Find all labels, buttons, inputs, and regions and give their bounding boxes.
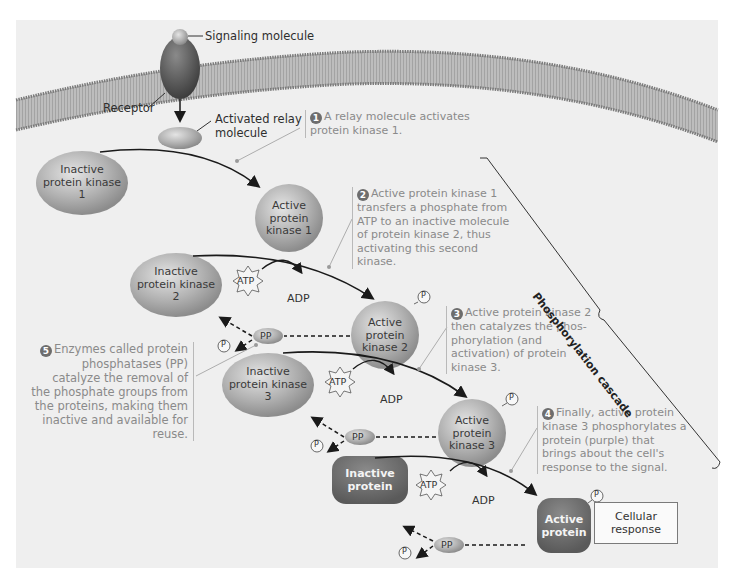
inorganic-phosphate-icon-3: P [402,547,407,556]
pp-label-2: PP [352,431,363,442]
atp-label-2: ATP [329,376,346,387]
step-5: 5Enzymes called protein phosphatases (PP… [30,342,194,441]
inactive-protein-kinase-2: Inactive protein kinase 2 [134,259,218,311]
step-1-text: A relay molecule activates protein kinas… [310,110,470,137]
step-number-5: 5 [40,345,52,357]
active-protein-kinase-1: Active protein kinase 1 [258,192,320,246]
inorganic-phosphate-icon-1: P [221,340,226,349]
inactive-protein: Inactive protein [332,456,408,504]
step-number-2: 2 [357,189,369,201]
active-protein-kinase-2: Active protein kinase 2 [354,309,416,363]
phosphate-icon-pk3: P [509,393,514,402]
phosphorylation-cascade-diagram: Signaling molecule Receptor Activated re… [0,0,735,574]
adp-label-1: ADP [287,292,310,305]
relay-molecule-label: Activated relay molecule [215,112,305,140]
cellular-response-box: Cellular response [594,502,678,544]
inactive-protein-kinase-3: Inactive protein kinase 3 [226,359,310,411]
signaling-molecule-label: Signaling molecule [205,29,314,43]
step-2: 2Active protein kinase 1 transfers a pho… [352,187,517,269]
step-1: 1A relay molecule activates protein kina… [305,110,490,138]
adp-label-2: ADP [380,393,403,406]
receptor-shape [160,37,200,99]
step-4-text: Finally, active protein kinase 3 phospho… [542,406,687,474]
atp-label-3: ATP [420,479,437,490]
pp-label-1: PP [260,330,271,341]
phosphate-icon-pk2: P [421,291,426,300]
step-5-text: Enzymes called protein phosphatases (PP)… [31,342,188,441]
step-2-text: Active protein kinase 1 transfers a phos… [357,187,509,268]
inorganic-phosphate-icon-2: P [314,440,319,449]
signaling-molecule-shape [172,29,188,45]
adp-label-3: ADP [472,494,495,507]
step-number-1: 1 [310,112,322,124]
step-number-3: 3 [451,308,463,320]
active-protein-kinase-3: Active protein kinase 3 [441,407,503,461]
receptor-label: Receptor [103,101,155,115]
phosphate-icon-protein: P [594,490,599,499]
active-protein: Active protein [537,498,591,553]
inactive-protein-kinase-1: Inactive protein kinase 1 [40,157,124,209]
relay-molecule-shape [158,127,202,149]
step-number-4: 4 [542,408,554,420]
pp-label-3: PP [441,539,452,550]
atp-label-1: ATP [237,275,254,286]
step-4: 4Finally, active protein kinase 3 phosph… [537,406,690,474]
